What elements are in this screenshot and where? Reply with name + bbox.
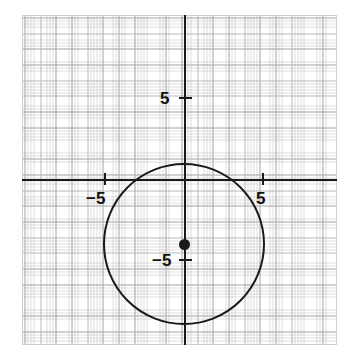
x-axis-label-negative-5: −5: [86, 190, 105, 207]
coordinate-plane-figure: 5 −5 5 −5: [0, 0, 356, 360]
bottom-margin-mask: [0, 345, 356, 360]
x-axis-tick-positive-5: [262, 173, 264, 185]
x-axis-tick-negative-5: [104, 173, 106, 185]
y-axis-label-positive-5: 5: [160, 90, 169, 107]
y-axis-label-negative-5: −5: [152, 252, 171, 269]
right-margin-mask: [337, 0, 356, 360]
y-axis-tick-positive-5: [179, 97, 192, 99]
x-axis-label-positive-5: 5: [256, 190, 265, 207]
circle-center-point: [179, 239, 190, 250]
